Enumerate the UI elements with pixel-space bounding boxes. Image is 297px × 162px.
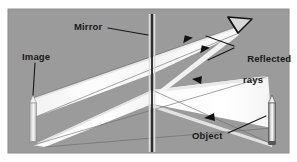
label-image: Image	[22, 52, 50, 63]
label-reflected-rays-line1: Reflected	[247, 53, 291, 64]
label-reflected-rays-line2: rays	[243, 75, 291, 86]
object-body	[269, 103, 276, 144]
image-base	[30, 141, 37, 145]
image-body	[30, 103, 37, 144]
label-mirror: Mirror	[74, 22, 102, 33]
figure-root: Mirror Image Reflected rays Object	[0, 0, 297, 162]
object-base	[269, 141, 276, 145]
label-reflected-rays: Reflected rays	[236, 43, 291, 106]
label-object: Object	[192, 131, 222, 142]
image-icon	[30, 95, 37, 145]
mirror-line	[150, 14, 155, 152]
